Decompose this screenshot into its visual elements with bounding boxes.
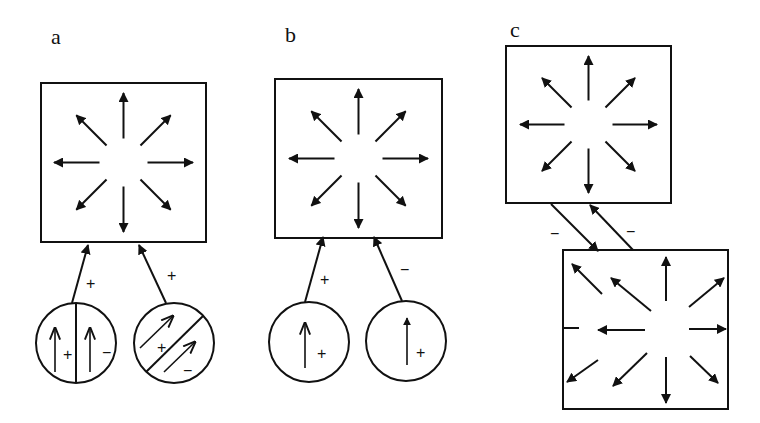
radial-arrow-icon	[542, 78, 572, 108]
panel-a-input1-arrow-icon	[72, 245, 88, 303]
radial-arrow-icon	[311, 111, 341, 141]
radial-arrow-icon	[375, 111, 405, 141]
panel-a-input2-arrow-icon	[139, 245, 166, 303]
panel-b-label: b	[285, 24, 296, 46]
radial-arrow-icon	[76, 179, 106, 209]
panel-b-input-circle	[269, 302, 349, 382]
panel-c-link1-sign: −	[550, 226, 559, 242]
panel-c-label: c	[510, 19, 520, 41]
radial-arrow-icon	[605, 141, 635, 171]
panel-a-circle2-plus: +	[157, 340, 166, 356]
panel-c-link2-sign: −	[626, 224, 635, 240]
panel-a-label: a	[51, 26, 61, 48]
panel-a-input1-sign: +	[86, 276, 95, 292]
radial-arrow-icon	[375, 175, 405, 205]
panel-b-input1-arrow-icon	[305, 237, 323, 302]
panel-c-bottom-arrow-icon	[567, 360, 598, 382]
panel-c-bottom-arrow-icon	[613, 353, 647, 386]
panel-a-circle2-divider	[146, 316, 203, 372]
panel-a-circle1-minus: −	[102, 345, 111, 361]
panel-b-circle2-plus: +	[416, 345, 425, 361]
panel-b-input-circle	[366, 301, 446, 381]
panel-c-bottom-arrow-icon	[611, 278, 651, 311]
panel-a-circle1-plus: +	[63, 347, 72, 363]
panel-c-bottom-arrow-icon	[572, 264, 602, 294]
panel-a-circle2-minus: −	[183, 363, 192, 379]
radial-arrow-icon	[542, 141, 572, 171]
panel-c-bottom-arrow-icon	[689, 278, 724, 307]
radial-arrow-icon	[311, 175, 341, 205]
panel-b-input2-arrow-icon	[374, 237, 402, 301]
panel-a-input2-sign: +	[167, 268, 176, 284]
diagram-canvas	[0, 0, 760, 423]
radial-arrow-icon	[76, 115, 106, 145]
panel-b-input2-sign: −	[400, 262, 409, 278]
panel-b-circle1-plus: +	[317, 346, 326, 362]
radial-arrow-icon	[140, 115, 170, 145]
radial-arrow-icon	[605, 78, 635, 108]
panel-c-bottom-arrow-icon	[690, 356, 718, 383]
radial-arrow-icon	[140, 179, 170, 209]
panel-b-input1-sign: +	[320, 272, 329, 288]
